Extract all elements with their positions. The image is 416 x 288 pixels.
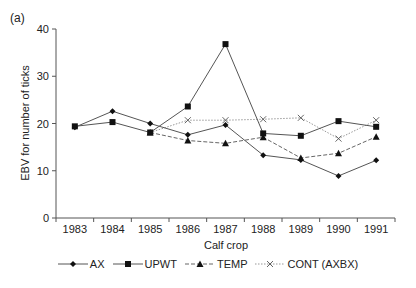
series-group xyxy=(72,41,380,179)
legend-label: UPWT xyxy=(145,258,177,270)
legend-item-temp: TEMP xyxy=(185,258,248,270)
legend-label: TEMP xyxy=(217,258,248,270)
x-tick-label: 1983 xyxy=(63,223,87,235)
y-tick-label: 20 xyxy=(37,118,49,130)
x-tick-label: 1988 xyxy=(251,223,275,235)
line-chart: (a) EBV for number of ticks Calf crop 01… xyxy=(0,0,416,258)
triangle-marker-icon xyxy=(185,259,215,269)
x-tick-label: 1985 xyxy=(138,223,162,235)
y-tick-label: 0 xyxy=(43,212,49,224)
x-tick-label: 1986 xyxy=(176,223,200,235)
x-tick-label: 1987 xyxy=(213,223,237,235)
panel-label: (a) xyxy=(10,11,25,25)
y-tick-label: 30 xyxy=(37,70,49,82)
y-tick-label: 40 xyxy=(37,23,49,35)
x-tick-label: 1991 xyxy=(364,223,388,235)
x-axis-label: Calf crop xyxy=(204,239,248,251)
axes: 0102030401983198419851986198719881989199… xyxy=(37,23,395,235)
legend: AXUPWTTEMPCONT (AXBX) xyxy=(0,258,416,270)
y-tick-label: 10 xyxy=(37,165,49,177)
y-axis-label: EBV for number of ticks xyxy=(19,65,31,181)
x-marker-icon xyxy=(255,259,285,269)
square-marker-icon xyxy=(113,259,143,269)
x-tick-label: 1989 xyxy=(289,223,313,235)
diamond-marker-icon xyxy=(58,259,88,269)
legend-label: CONT (AXBX) xyxy=(287,258,358,270)
legend-item-cont-axbx: CONT (AXBX) xyxy=(255,258,358,270)
legend-item-ax: AX xyxy=(58,258,105,270)
legend-label: AX xyxy=(90,258,105,270)
x-tick-label: 1984 xyxy=(100,223,124,235)
x-tick-label: 1990 xyxy=(326,223,350,235)
legend-item-upwt: UPWT xyxy=(113,258,177,270)
